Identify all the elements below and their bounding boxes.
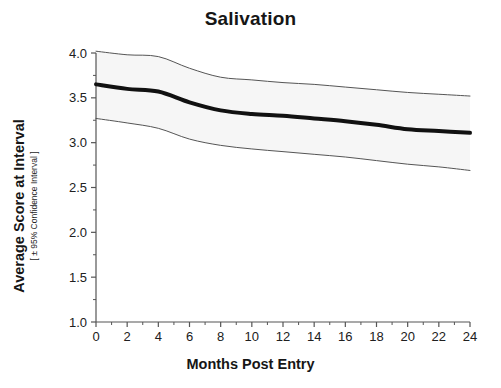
x-tick-label: 18	[369, 329, 383, 344]
x-tick-label: 16	[338, 329, 352, 344]
page-title: Salivation	[0, 8, 501, 30]
x-tick-label: 6	[186, 329, 193, 344]
y-tick-label: 1.5	[69, 270, 87, 285]
y-tick-label: 2.5	[69, 180, 87, 195]
y-tick-label: 3.5	[69, 90, 87, 105]
y-axis-title-subtitle: [ ± 95% Confidence Interval ]	[29, 91, 40, 321]
y-axis-title: Average Score at Interval [ ± 95% Confid…	[11, 91, 57, 321]
x-axis-title: Months Post Entry	[0, 356, 501, 372]
chart-figure: Salivation Average Score at Interval [ ±…	[0, 0, 501, 388]
x-tick-label: 20	[400, 329, 414, 344]
x-tick-label: 0	[92, 329, 99, 344]
y-axis-title-main: Average Score at Interval	[11, 91, 28, 321]
confidence-band	[96, 51, 470, 170]
x-tick-label: 10	[245, 329, 259, 344]
x-tick-label: 14	[307, 329, 321, 344]
x-tick-label: 24	[463, 329, 477, 344]
x-tick-label: 2	[124, 329, 131, 344]
y-tick-label: 1.0	[69, 315, 87, 330]
y-tick-label: 2.0	[69, 225, 87, 240]
plot-canvas: 1.01.52.02.53.03.54.00246810121416182022…	[0, 0, 501, 388]
x-tick-label: 12	[276, 329, 290, 344]
confidence-band-fill	[96, 51, 470, 170]
y-tick-label: 4.0	[69, 46, 87, 61]
x-tick-label: 8	[217, 329, 224, 344]
x-tick-label: 4	[155, 329, 162, 344]
x-tick-label: 22	[432, 329, 446, 344]
y-tick-label: 3.0	[69, 135, 87, 150]
